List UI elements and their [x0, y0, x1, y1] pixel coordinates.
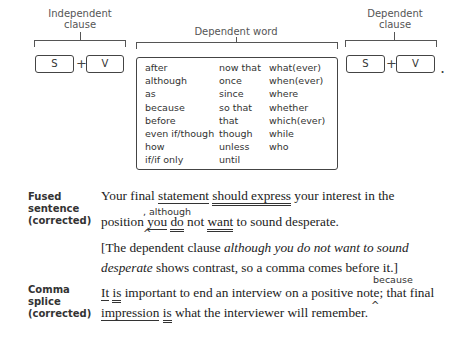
- insertion-text: because: [373, 274, 413, 285]
- word-column-1: after although as because before even if…: [145, 61, 214, 167]
- text: shows contrast, so a comma comes before …: [153, 260, 398, 275]
- italic-text: desperate: [101, 260, 153, 275]
- subject-box: S: [346, 55, 385, 73]
- label-line: sentence: [28, 203, 91, 215]
- example-line: position you do not want to sound desper…: [101, 214, 339, 230]
- word: after: [145, 61, 214, 74]
- example-line: Your final statement should express your…: [101, 188, 394, 204]
- word: unless: [219, 140, 261, 153]
- word: now that: [219, 61, 261, 74]
- verb-underlined: do: [170, 214, 183, 232]
- dependent-clause-bracket: [345, 40, 437, 47]
- example-line: It is important to end an interview on a…: [101, 285, 434, 301]
- caret-mark: ^: [143, 228, 151, 239]
- word: what(ever): [269, 61, 325, 74]
- text: important to end an interview on a posit…: [121, 285, 379, 300]
- dependent-word-bracket: [136, 42, 338, 49]
- word: because: [145, 101, 214, 114]
- text: your interest in the: [291, 188, 394, 203]
- text: what the interviewer will remember.: [172, 305, 368, 320]
- word: before: [145, 114, 214, 127]
- word: that: [219, 114, 261, 127]
- label-line: clause: [20, 19, 140, 30]
- word: if/if only: [145, 153, 214, 166]
- comma-splice-label: Comma splice (corrected): [28, 284, 91, 320]
- label-line: (corrected): [28, 215, 91, 227]
- word: although: [145, 74, 214, 87]
- word: when(ever): [269, 74, 325, 87]
- word: even if/though: [145, 127, 214, 140]
- text: Your final: [101, 188, 158, 203]
- word: whether: [269, 101, 325, 114]
- verb-box: V: [86, 55, 124, 73]
- text: that final: [383, 285, 434, 300]
- word-column-3: what(ever) when(ever) where whether whic…: [269, 61, 325, 153]
- label-line: Dependent: [345, 8, 445, 19]
- period: .: [440, 60, 445, 76]
- independent-clause-bracket: [34, 40, 126, 47]
- verb-underlined: is: [163, 305, 172, 323]
- explanation-line: [The dependent clause although you do no…: [101, 240, 409, 256]
- verb-underlined: want: [207, 214, 233, 232]
- subject-box: S: [35, 55, 74, 73]
- word-column-2: now that once since so that that though …: [219, 61, 261, 167]
- label-line: Comma: [28, 284, 91, 296]
- word: as: [145, 87, 214, 100]
- label-line: (corrected): [28, 308, 91, 320]
- italic-text: although you do not want to sound: [224, 240, 409, 255]
- verb-underlined: is: [112, 285, 121, 303]
- word: until: [219, 153, 261, 166]
- independent-clause-label: Independent clause: [20, 8, 140, 30]
- word: so that: [219, 101, 261, 114]
- verb-box: V: [396, 55, 435, 73]
- word: since: [219, 87, 261, 100]
- subject-underlined: It: [101, 285, 109, 301]
- bracket-stem: [394, 32, 395, 40]
- dependent-word-list: after although as because before even if…: [136, 57, 338, 170]
- word: once: [219, 74, 261, 87]
- subject-underlined: impression: [101, 305, 159, 321]
- explanation-line: desperate shows contrast, so a comma com…: [101, 260, 398, 276]
- word: who: [269, 140, 325, 153]
- text: [The dependent clause: [101, 240, 224, 255]
- bracket-stem: [80, 32, 81, 40]
- text: to sound desperate.: [233, 214, 339, 229]
- example-line: impression is what the interviewer will …: [101, 305, 368, 321]
- caret-mark: ^: [371, 300, 379, 311]
- word: though: [219, 127, 261, 140]
- label-line: splice: [28, 296, 91, 308]
- text: not: [184, 214, 208, 229]
- word: how: [145, 140, 214, 153]
- verb-underlined: should express: [212, 188, 291, 206]
- word: where: [269, 87, 325, 100]
- subject-underlined: statement: [158, 188, 209, 204]
- dependent-word-label: Dependent word: [136, 26, 336, 37]
- text: position: [101, 214, 147, 229]
- word: while: [269, 127, 325, 140]
- fused-sentence-label: Fused sentence (corrected): [28, 191, 91, 227]
- label-line: Fused: [28, 191, 91, 203]
- word: which(ever): [269, 114, 325, 127]
- label-line: clause: [345, 19, 445, 30]
- dependent-clause-label: Dependent clause: [345, 8, 445, 30]
- label-line: Independent: [20, 8, 140, 19]
